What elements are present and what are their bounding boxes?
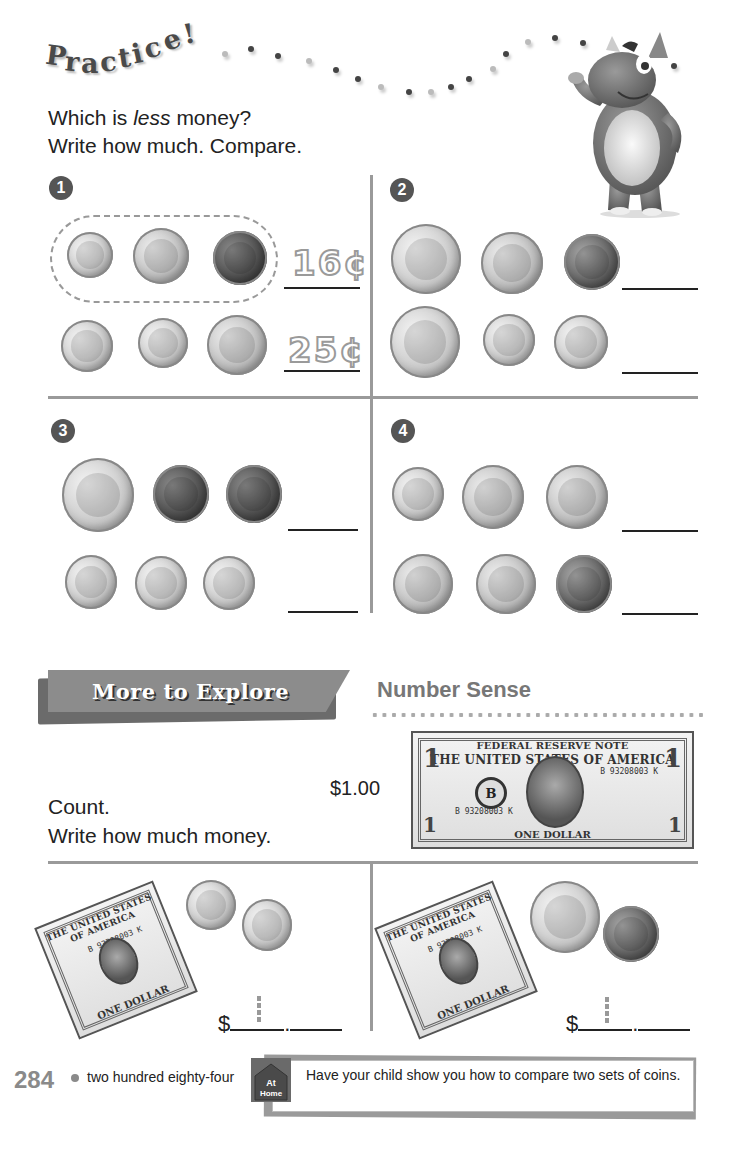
coin-dime	[61, 320, 113, 372]
problem-number-badge: 2	[390, 178, 414, 202]
count-instructions: Count. Write how much money.	[48, 792, 271, 850]
coin-dime	[65, 555, 117, 609]
more-to-explore-banner: More to Explore	[48, 670, 350, 712]
rhino-mascot-illustration	[560, 28, 695, 218]
answer-line[interactable]	[622, 530, 698, 532]
problem-number-badge: 1	[49, 176, 73, 200]
coin-penny	[153, 465, 209, 523]
coin-nickel	[546, 465, 608, 529]
coin-dime	[138, 318, 188, 368]
federal-reserve-seal: B	[475, 777, 507, 809]
coin-nickel	[481, 232, 543, 294]
bullet-icon	[71, 1074, 79, 1082]
section-divider-vertical	[370, 864, 373, 1031]
at-home-note-text: Have your child show you how to compare …	[306, 1066, 686, 1084]
problem-number-badge: 4	[391, 419, 415, 443]
coin-penny	[213, 231, 267, 285]
coin-dime	[186, 880, 236, 930]
decorative-dot-divider	[370, 712, 705, 718]
coin-nickel	[462, 465, 524, 529]
at-home-house-icon: At Home	[249, 1056, 293, 1104]
answer-line[interactable]	[622, 372, 698, 374]
coin-penny	[556, 555, 612, 613]
page-number: 284	[14, 1066, 54, 1094]
coin-nickel	[133, 228, 189, 284]
coin-nickel	[393, 554, 453, 614]
washington-portrait	[526, 756, 584, 828]
coin-dime	[483, 314, 535, 366]
one-dollar-bill-folded: THE UNITED STATES OF AMERICA B 93208003 …	[374, 880, 538, 1039]
answer-line[interactable]	[288, 529, 358, 531]
page-number-words: two hundred eighty-four	[87, 1069, 234, 1085]
grid-divider-horizontal	[48, 396, 698, 399]
coin-quarter	[390, 306, 460, 378]
banner-title: More to Explore	[92, 679, 289, 704]
money-answer-field[interactable]: $.	[218, 1011, 342, 1037]
coin-dime	[242, 899, 292, 951]
coin-nickel	[207, 315, 267, 375]
money-answer-field[interactable]: $.	[566, 1011, 690, 1037]
grid-divider-vertical	[370, 175, 373, 613]
answer-line[interactable]	[622, 613, 698, 615]
coin-quarter	[62, 458, 134, 532]
one-dollar-bill: FEDERAL RESERVE NOTE THE UNITED STATES O…	[411, 731, 694, 849]
coin-dime	[203, 556, 255, 610]
number-sense-heading: Number Sense	[377, 677, 531, 703]
answer-line[interactable]	[284, 287, 360, 289]
answer-line[interactable]	[622, 288, 698, 290]
example-value: $1.00	[330, 777, 380, 800]
coin-dime	[392, 467, 444, 521]
traced-answer: 25¢	[288, 330, 365, 370]
section-divider-horizontal	[48, 861, 698, 864]
answer-line[interactable]	[284, 370, 360, 372]
coin-quarter	[391, 224, 461, 294]
coin-nickel	[476, 554, 536, 614]
coin-dime	[67, 232, 113, 278]
traced-answer: 16¢	[292, 243, 369, 283]
coin-penny	[564, 234, 620, 290]
coin-dime	[135, 556, 187, 610]
coin-penny	[603, 906, 659, 962]
svg-text:At: At	[266, 1078, 276, 1088]
coin-dime	[554, 315, 608, 369]
one-dollar-bill-folded: THE UNITED STATES OF AMERICA B 93208003 …	[34, 880, 198, 1039]
svg-text:Home: Home	[260, 1089, 283, 1098]
coin-penny	[226, 465, 282, 523]
answer-line[interactable]	[288, 611, 358, 613]
practice-instructions: Which is less money? Write how much. Com…	[48, 104, 302, 160]
coin-quarter	[530, 881, 600, 953]
problem-number-badge: 3	[51, 419, 75, 443]
